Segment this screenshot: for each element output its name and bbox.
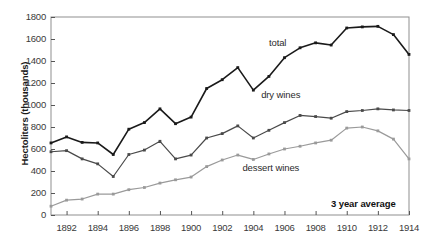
data-point-marker (252, 89, 255, 92)
data-point-marker (330, 139, 333, 142)
data-point-marker (221, 159, 224, 162)
data-point-marker (143, 186, 146, 189)
data-point-marker (345, 27, 348, 30)
plot-frame (51, 17, 409, 215)
data-point-marker (174, 178, 177, 181)
data-point-marker (236, 125, 239, 128)
plot-area (0, 0, 425, 250)
data-point-marker (376, 25, 379, 28)
data-point-marker (112, 193, 115, 196)
series-line-dry-wines (51, 109, 409, 177)
data-point-marker (299, 114, 302, 117)
data-point-marker (127, 188, 130, 191)
data-point-marker (190, 116, 193, 119)
data-point-marker (376, 129, 379, 132)
data-point-marker (205, 87, 208, 90)
x-axis-tick-label: 1914 (389, 222, 425, 233)
data-point-marker (361, 26, 364, 29)
data-point-marker (376, 107, 379, 110)
data-point-marker (159, 140, 162, 143)
data-point-marker (392, 138, 395, 141)
data-point-marker (268, 129, 271, 132)
data-point-marker (408, 109, 411, 112)
data-point-marker (361, 109, 364, 112)
data-point-marker (81, 141, 84, 144)
series-label-dry-wines: dry wines (261, 89, 300, 100)
data-point-marker (236, 154, 239, 157)
data-point-marker (65, 149, 68, 152)
three-year-average-note: 3 year average (331, 198, 396, 209)
data-point-marker (299, 46, 302, 49)
data-point-marker (314, 142, 317, 145)
data-point-marker (345, 127, 348, 130)
series-line-total (51, 26, 409, 154)
data-point-marker (314, 41, 317, 44)
data-point-marker (174, 122, 177, 125)
data-point-marker (96, 142, 99, 145)
data-point-marker (314, 115, 317, 118)
data-point-marker (65, 136, 68, 139)
data-point-marker (190, 154, 193, 157)
data-point-marker (174, 158, 177, 161)
data-point-marker (127, 153, 130, 156)
data-point-marker (221, 78, 224, 81)
data-point-marker (408, 53, 411, 56)
data-point-marker (159, 107, 162, 110)
data-point-marker (205, 137, 208, 140)
data-point-marker (143, 121, 146, 124)
data-point-marker (252, 158, 255, 161)
data-point-marker (205, 165, 208, 168)
data-point-marker (112, 175, 115, 178)
wine-production-line-chart: Hectoliters (thousands) 0200400600800100… (0, 0, 425, 250)
data-point-marker (143, 149, 146, 152)
data-point-marker (330, 44, 333, 47)
series-label-total: total (269, 37, 286, 48)
series-line-dessert-wines (51, 127, 409, 206)
series-label-dessert-wines: dessert wines (242, 162, 299, 173)
data-point-marker (190, 176, 193, 179)
data-point-marker (112, 153, 115, 156)
data-point-marker (127, 128, 130, 131)
data-point-marker (81, 198, 84, 201)
data-point-marker (283, 56, 286, 59)
data-point-marker (345, 110, 348, 113)
data-point-marker (236, 66, 239, 69)
data-point-marker (96, 162, 99, 165)
data-point-marker (96, 193, 99, 196)
data-point-marker (361, 126, 364, 129)
data-point-marker (268, 75, 271, 78)
data-point-marker (159, 182, 162, 185)
data-point-marker (50, 142, 53, 145)
data-point-marker (283, 148, 286, 151)
x-axis-tick-labels: 1892189418961898190019021904190619081910… (0, 218, 425, 238)
data-point-marker (299, 145, 302, 148)
data-point-marker (50, 150, 53, 153)
data-point-marker (268, 153, 271, 156)
data-point-marker (221, 132, 224, 135)
data-point-marker (65, 199, 68, 202)
data-point-marker (50, 205, 53, 208)
data-point-marker (392, 109, 395, 112)
data-point-marker (252, 137, 255, 140)
data-point-marker (408, 158, 411, 161)
data-point-marker (283, 121, 286, 124)
data-point-marker (330, 117, 333, 120)
data-point-marker (392, 33, 395, 36)
data-point-marker (81, 158, 84, 161)
